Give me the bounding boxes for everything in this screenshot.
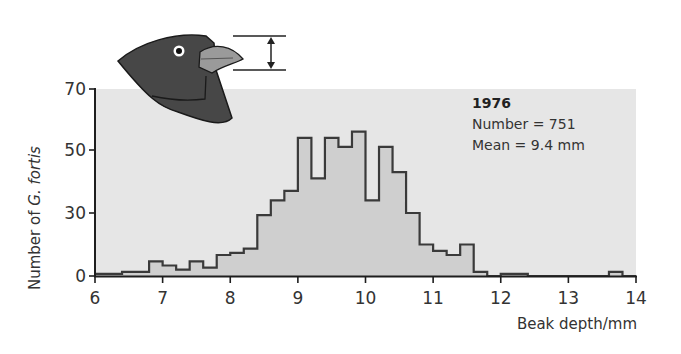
y-tick-label: 0 <box>75 266 86 286</box>
x-axis-title: Beak depth/mm <box>517 315 637 333</box>
x-tick-label: 14 <box>625 288 647 308</box>
finch-beak-icon <box>199 46 243 73</box>
y-axis-ticks: 0305070 <box>64 79 95 286</box>
annotation-mean: Mean = 9.4 mm <box>472 137 585 153</box>
x-tick-label: 10 <box>355 288 377 308</box>
x-tick-label: 6 <box>90 288 101 308</box>
y-tick-label: 50 <box>64 140 86 160</box>
y-tick-label: 30 <box>64 203 86 223</box>
x-tick-label: 13 <box>558 288 580 308</box>
x-tick-label: 12 <box>490 288 512 308</box>
beak-depth-histogram-chart: 0305070 67891011121314 Number of G. fort… <box>0 0 681 354</box>
arrowhead-down-icon <box>267 62 275 69</box>
x-tick-label: 8 <box>225 288 236 308</box>
y-axis-title-species: G. fortis <box>26 146 44 206</box>
x-tick-label: 9 <box>292 288 303 308</box>
y-axis-title-prefix: Number of <box>26 206 44 290</box>
arrowhead-up-icon <box>267 37 275 44</box>
finch-pupil-icon <box>176 48 182 54</box>
annotation-number: Number = 751 <box>472 116 576 132</box>
annotation-year: 1976 <box>472 95 511 111</box>
x-axis-ticks: 67891011121314 <box>90 276 647 308</box>
x-tick-label: 7 <box>157 288 168 308</box>
y-tick-label: 70 <box>64 79 86 99</box>
x-tick-label: 11 <box>422 288 444 308</box>
y-axis-title: Number of G. fortis <box>26 146 44 290</box>
